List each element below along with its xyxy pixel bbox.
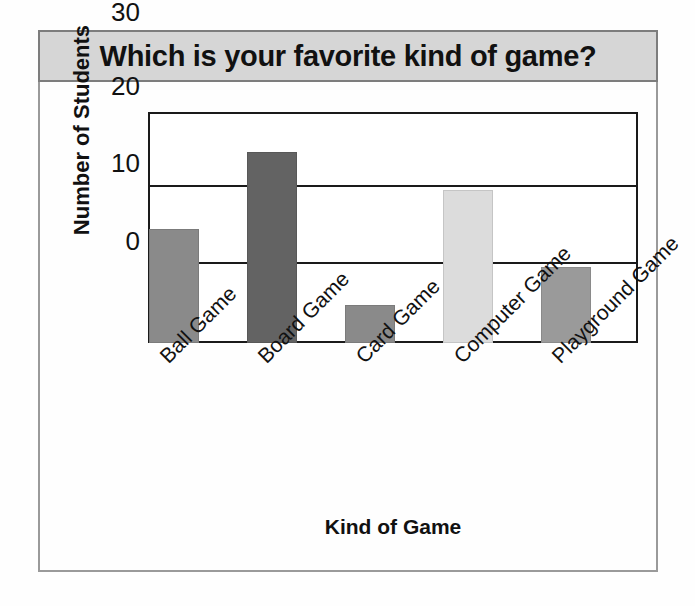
x-axis-category-labels: Ball GameBoard GameCard GameComputer Gam… <box>148 345 648 515</box>
y-tick-30: 30 <box>88 0 140 25</box>
chart-title: Which is your favorite kind of game? <box>100 40 597 73</box>
y-tick-20: 20 <box>88 73 140 99</box>
y-axis-tick-labels: 30 20 10 0 <box>88 0 140 606</box>
x-axis-title: Kind of Game <box>148 515 638 539</box>
y-tick-10: 10 <box>88 150 140 176</box>
y-tick-0: 0 <box>88 228 140 254</box>
